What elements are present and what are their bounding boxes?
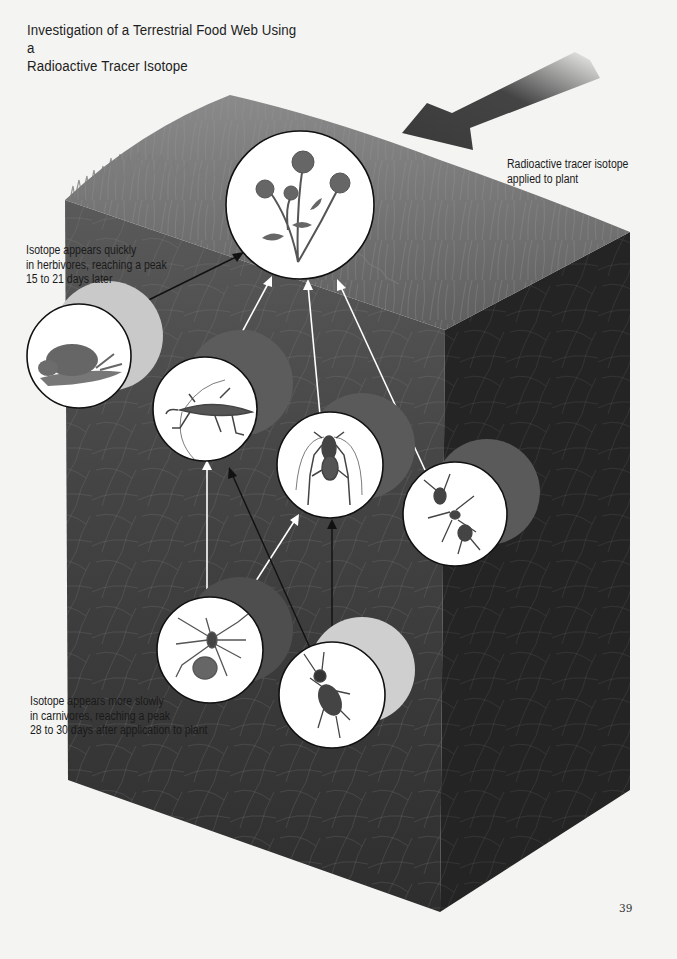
tracer-label-line: applied to plant [507,172,628,187]
tracer-arrow-icon [402,52,600,150]
tracer-label: Radioactive tracer isotope applied to pl… [507,157,628,186]
herbivore-label-line: Isotope appears quickly [26,243,167,258]
title-line-1: Investigation of a Terrestrial Food Web … [27,21,302,57]
carnivore-label-line: 28 to 30 days after application to plant [30,723,207,738]
organism-snail [27,304,131,408]
page-title: Investigation of a Terrestrial Food Web … [27,21,302,75]
page-number: 39 [619,902,632,914]
title-line-2: Radioactive Tracer Isotope [27,57,302,75]
herbivore-label-line: in herbivores, reaching a peak [26,258,167,273]
organism-plant [226,131,374,279]
organism-ground-beetle [279,642,385,748]
herbivore-label-line: 15 to 21 days later [26,272,167,287]
organism-cricket [277,412,383,518]
carnivore-label-line: in carnivores, reaching a peak [30,709,207,724]
carnivore-label: Isotope appears more slowly in carnivore… [30,694,207,738]
carnivore-label-line: Isotope appears more slowly [30,694,207,709]
organism-spider [157,597,263,703]
herbivore-label: Isotope appears quickly in herbivores, r… [26,243,167,287]
tracer-label-line: Radioactive tracer isotope [507,157,628,172]
organism-grasshopper [153,357,257,461]
organism-ant [403,462,507,566]
food-web-illustration [0,0,677,959]
